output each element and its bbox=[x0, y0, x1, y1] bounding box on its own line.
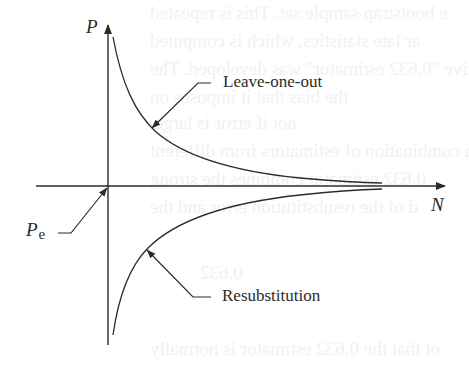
leave-one-out-leader bbox=[152, 83, 211, 128]
pe-label-subscript: e bbox=[39, 226, 46, 242]
x-axis-label: N bbox=[431, 194, 444, 216]
error-rate-figure: e bootstrap sample set. This is repeated… bbox=[0, 0, 469, 366]
resubstitution-label: Resubstitution bbox=[222, 286, 320, 306]
pe-label-main: P bbox=[26, 219, 38, 240]
resubstitution-leader bbox=[147, 250, 211, 297]
pe-label: Pe bbox=[26, 219, 45, 241]
pe-leader bbox=[58, 188, 107, 233]
resubstitution-curve bbox=[113, 189, 382, 335]
leave-one-out-label: Leave-one-out bbox=[223, 72, 322, 92]
leave-one-out-curve bbox=[113, 37, 382, 183]
y-axis-label: P bbox=[86, 16, 98, 38]
plot-area bbox=[0, 0, 469, 366]
